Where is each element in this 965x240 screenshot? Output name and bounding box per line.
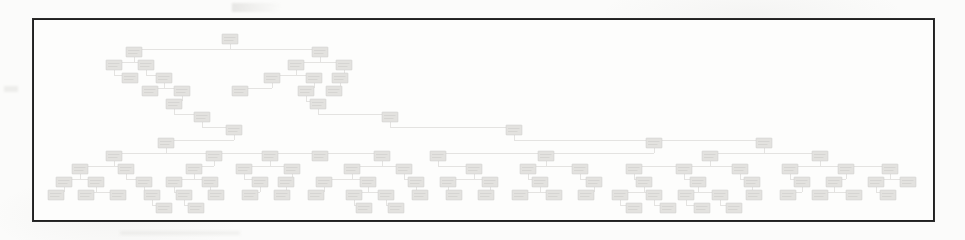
tree-node <box>316 177 332 187</box>
tree-node <box>482 177 498 187</box>
tree-node <box>278 177 294 187</box>
tree-node <box>156 73 172 83</box>
tree-node <box>646 190 662 200</box>
tree-node <box>726 203 742 213</box>
tree-node <box>208 190 224 200</box>
diagram-blur-wrapper <box>34 20 933 220</box>
tree-node <box>136 177 152 187</box>
tree-node <box>846 190 862 200</box>
tree-node <box>780 190 796 200</box>
scan-smudge-bottom <box>120 231 240 235</box>
tree-node <box>72 164 88 174</box>
tree-node <box>586 177 602 187</box>
tree-node <box>308 190 324 200</box>
tree-node <box>274 190 290 200</box>
tree-node <box>678 190 694 200</box>
tree-node <box>744 177 760 187</box>
tree-node <box>226 125 242 135</box>
tree-node <box>782 164 798 174</box>
tree-node <box>138 60 154 70</box>
tree-node <box>812 190 828 200</box>
tree-node <box>48 190 64 200</box>
tree-node <box>812 151 828 161</box>
tree-node <box>288 60 304 70</box>
tree-node <box>702 151 718 161</box>
tree-node <box>176 190 192 200</box>
tree-node <box>676 164 692 174</box>
tree-node <box>538 151 554 161</box>
tree-node <box>206 151 222 161</box>
tree-node <box>378 190 394 200</box>
tree-node <box>408 177 424 187</box>
tree-node <box>202 177 218 187</box>
tree-node <box>78 190 94 200</box>
tree-node <box>310 99 326 109</box>
tree-node <box>578 190 594 200</box>
scan-smudge-left <box>4 86 18 92</box>
tree-node <box>346 190 362 200</box>
tree-node <box>446 190 462 200</box>
figure-frame <box>32 18 935 222</box>
tree-node <box>690 177 706 187</box>
tree-node <box>232 86 248 96</box>
tree-node <box>126 47 142 57</box>
tree-node <box>360 177 376 187</box>
tree-node <box>646 138 662 148</box>
tree-node <box>264 73 280 83</box>
tree-node <box>466 164 482 174</box>
tree-node <box>166 99 182 109</box>
tree-node <box>572 164 588 174</box>
tree-node <box>794 177 810 187</box>
tree-node <box>118 164 134 174</box>
tree-node <box>312 151 328 161</box>
tree-node <box>520 164 536 174</box>
tree-node <box>252 177 268 187</box>
tree-diagram <box>34 20 933 220</box>
tree-node <box>478 190 494 200</box>
tree-node <box>440 177 456 187</box>
tree-node <box>336 60 352 70</box>
tree-node <box>312 47 328 57</box>
tree-node <box>388 203 404 213</box>
tree-node <box>144 190 160 200</box>
tree-node <box>430 151 446 161</box>
tree-node <box>660 203 676 213</box>
tree-node <box>344 164 360 174</box>
tree-node <box>712 190 728 200</box>
tree-node <box>746 190 762 200</box>
tree-node <box>546 190 562 200</box>
nodes-layer <box>48 34 916 213</box>
tree-node <box>412 190 428 200</box>
tree-node <box>88 177 104 187</box>
tree-node <box>332 73 348 83</box>
tree-node <box>306 73 322 83</box>
tree-node <box>356 203 372 213</box>
scanned-page <box>0 0 965 240</box>
tree-node <box>396 164 412 174</box>
tree-node <box>188 203 204 213</box>
tree-node <box>298 86 314 96</box>
tree-node <box>626 164 642 174</box>
tree-node <box>882 164 898 174</box>
tree-node <box>512 190 528 200</box>
tree-node <box>838 164 854 174</box>
tree-node <box>166 177 182 187</box>
tree-node <box>826 177 842 187</box>
tree-node <box>158 138 174 148</box>
tree-node <box>626 203 642 213</box>
tree-node <box>612 190 628 200</box>
tree-node <box>694 203 710 213</box>
tree-node <box>56 177 72 187</box>
tree-node <box>532 177 548 187</box>
tree-node <box>506 125 522 135</box>
tree-node <box>142 86 158 96</box>
tree-node <box>236 164 252 174</box>
scan-smudge-top <box>232 3 284 12</box>
tree-node <box>756 138 772 148</box>
tree-node <box>156 203 172 213</box>
tree-node <box>106 60 122 70</box>
tree-node <box>122 73 138 83</box>
tree-node <box>868 177 884 187</box>
tree-node <box>242 190 258 200</box>
tree-node <box>222 34 238 44</box>
